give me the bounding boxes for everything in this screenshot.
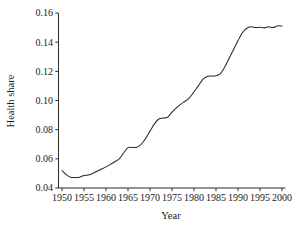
y-axis-title: Health share (5, 74, 16, 127)
x-tick-label: 1950 (52, 192, 72, 203)
data-series-line (62, 26, 282, 178)
x-tick-label: 2000 (272, 192, 292, 203)
x-tick-label: 1980 (184, 192, 204, 203)
y-tick-label: 0.12 (36, 66, 54, 77)
x-tick-label: 1960 (96, 192, 116, 203)
x-tick-label: 1975 (162, 192, 182, 203)
x-tick-label: 1995 (250, 192, 270, 203)
axis-ticks (55, 13, 282, 191)
series-path-0 (62, 26, 282, 178)
axis-spines (59, 13, 286, 188)
y-tick-label: 0.08 (36, 124, 54, 135)
x-tick-label: 1965 (118, 192, 138, 203)
x-tick-label: 1970 (140, 192, 160, 203)
y-tick-label: 0.04 (36, 182, 54, 193)
y-tick-label: 0.16 (36, 7, 54, 18)
x-axis-title: Year (161, 210, 181, 221)
y-tick-label: 0.06 (36, 153, 54, 164)
x-tick-label: 1985 (206, 192, 226, 203)
y-tick-label: 0.10 (36, 95, 54, 106)
chart-figure: 0.040.060.080.100.120.140.16195019551960… (0, 0, 297, 227)
x-tick-label: 1955 (74, 192, 94, 203)
axis-tick-labels: 0.040.060.080.100.120.140.16195019551960… (36, 7, 292, 203)
x-tick-label: 1990 (228, 192, 248, 203)
line-chart: 0.040.060.080.100.120.140.16195019551960… (0, 0, 297, 227)
y-tick-label: 0.14 (36, 37, 54, 48)
